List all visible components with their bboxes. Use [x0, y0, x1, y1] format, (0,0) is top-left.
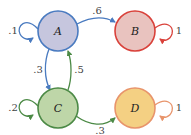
edge-D-D	[155, 101, 172, 117]
node-B-label: B	[130, 25, 139, 38]
edge-C-C	[19, 100, 38, 116]
edge-A-C	[45, 49, 50, 90]
edge-label-D-D: 1	[176, 102, 182, 113]
node-A: A	[38, 11, 78, 51]
node-C-label: C	[54, 102, 63, 115]
edge-label-A-C: .3	[33, 64, 43, 75]
node-D: D	[115, 88, 155, 128]
edge-label-A-B: .6	[92, 5, 102, 16]
edge-label-C-A: .5	[74, 64, 84, 75]
edge-label-B-B: 1	[176, 25, 182, 36]
edge-label-C-C: .2	[8, 102, 18, 113]
edge-A-A	[19, 23, 38, 39]
edge-label-A-A: .1	[8, 25, 18, 36]
markov-chain-diagram: A B C D .1 .6 .3 .5 1 .2 .3 1	[0, 0, 191, 135]
node-D-label: D	[130, 102, 140, 115]
edge-label-C-D: .3	[95, 125, 105, 135]
edge-C-D	[76, 116, 115, 124]
node-B: B	[115, 11, 155, 51]
node-C: C	[38, 88, 78, 128]
edge-C-A	[68, 51, 71, 90]
edge-A-B	[77, 18, 115, 24]
node-A-label: A	[53, 25, 62, 38]
edge-B-B	[155, 24, 172, 40]
